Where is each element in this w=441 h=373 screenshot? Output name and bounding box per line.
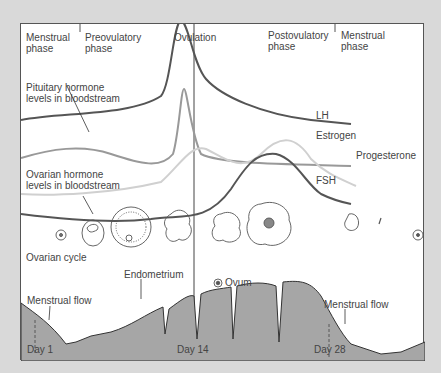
phase-menstrual-end: Menstrualphase [341,30,385,52]
pituitary-label: Pituitary hormonelevels in bloodstream [26,82,120,104]
fsh-label: FSH [316,175,336,186]
menstrual-flow-right-label: Menstrual flow [324,299,388,310]
estrogen-label: Estrogen [316,130,356,141]
ovarian-label: Ovarian hormonelevels in bloodstream [26,169,120,191]
ovum-label: Ovum [225,277,252,288]
ovarian-cycle-icons [56,202,423,287]
day14-label: Day 14 [177,344,209,355]
lh-label: LH [316,110,329,121]
day1-label: Day 1 [27,344,53,355]
phase-menstrual-start: Menstrualphase [26,32,70,54]
progesterone-label: Progesterone [356,150,416,161]
phase-preovulatory: Preovulatoryphase [85,32,141,54]
phase-postovulatory: Postovulatoryphase [268,30,329,52]
diagram-graphics [21,24,425,361]
day28-label: Day 28 [314,344,346,355]
menstrual-flow-left-label: Menstrual flow [27,295,91,306]
ovarian-cycle-label: Ovarian cycle [26,252,87,263]
endometrium-area [21,281,425,361]
endometrium-label: Endometrium [124,269,183,280]
diagram-panel: Menstrualphase Preovulatoryphase Ovulati… [20,23,424,360]
phase-ovulation: Ovulation [174,32,216,43]
